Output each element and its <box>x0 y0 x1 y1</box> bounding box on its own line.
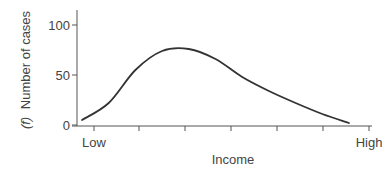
y-ticks: 100 50 0 <box>48 18 77 133</box>
chart: 100 50 0 Low High Income (f) Number of c… <box>0 0 387 172</box>
y-tick-0: 0 <box>63 118 70 133</box>
y-tick-50: 50 <box>56 68 70 83</box>
income-distribution-curve <box>82 48 349 123</box>
x-tick-high: High <box>356 135 383 150</box>
y-axis-title-text: Number of cases <box>18 10 33 109</box>
x-ticks <box>94 126 369 131</box>
y-axis-title-prefix: (f) <box>18 117 33 129</box>
x-tick-low: Low <box>82 135 106 150</box>
y-axis-title: (f) Number of cases <box>18 10 33 129</box>
x-axis-title: Income <box>212 152 255 167</box>
y-tick-100: 100 <box>48 18 70 33</box>
